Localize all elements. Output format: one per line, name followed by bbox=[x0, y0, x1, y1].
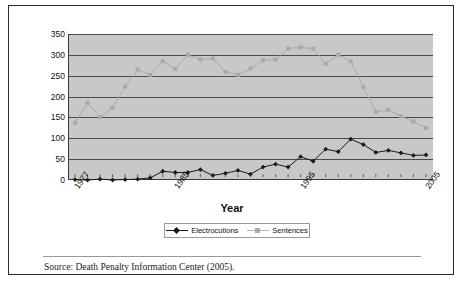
legend-item-sentences[interactable]: Sentences bbox=[247, 226, 307, 235]
y-tick-label: 50 bbox=[39, 155, 65, 163]
y-tick-label: 200 bbox=[39, 93, 65, 101]
square-marker-icon bbox=[247, 227, 269, 234]
diamond-marker-icon bbox=[166, 227, 188, 234]
legend-label: Sentences bbox=[272, 226, 307, 235]
figure-container: 350 300 250 200 150 100 50 0 19771985199… bbox=[8, 5, 454, 275]
y-tick-label: 350 bbox=[39, 30, 65, 38]
y-tick-label: 250 bbox=[39, 72, 65, 80]
source-note: Source: Death Penalty Information Center… bbox=[44, 262, 234, 272]
y-tick-label: 100 bbox=[39, 134, 65, 142]
legend-label: Electrocutions bbox=[191, 226, 238, 235]
y-tick-label: 0 bbox=[39, 176, 65, 184]
chart-legend[interactable]: Electrocutions Sentences bbox=[164, 223, 310, 238]
source-divider bbox=[43, 256, 421, 257]
y-tick-label: 300 bbox=[39, 51, 65, 59]
plot-area bbox=[68, 34, 433, 180]
y-tick-label: 150 bbox=[39, 113, 65, 121]
y-axis-tick-labels: 350 300 250 200 150 100 50 0 bbox=[35, 34, 65, 180]
chart-canvas: 350 300 250 200 150 100 50 0 19771985199… bbox=[9, 6, 455, 244]
legend-item-electrocutions[interactable]: Electrocutions bbox=[166, 226, 238, 235]
x-axis-title: Year bbox=[9, 202, 455, 214]
x-axis-ticks bbox=[69, 34, 434, 180]
